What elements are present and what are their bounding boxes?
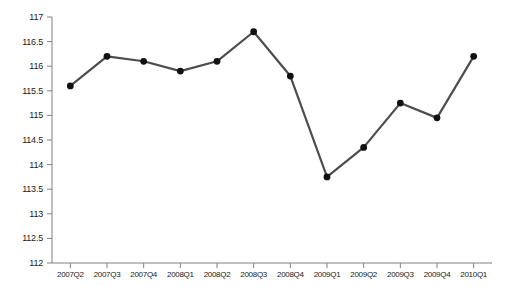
data-point <box>214 58 221 65</box>
x-axis-ticks <box>70 263 473 268</box>
y-axis-tick-label: 114 <box>0 160 43 170</box>
data-point <box>324 174 331 181</box>
data-point <box>287 73 294 80</box>
y-axis-tick-label: 115 <box>0 110 43 120</box>
data-point <box>67 82 74 89</box>
line-chart: 112112.5113113.5114114.5115115.5116116.5… <box>0 0 508 295</box>
y-axis-tick-label: 116.5 <box>0 37 43 47</box>
data-point <box>360 144 367 151</box>
data-point <box>470 53 477 60</box>
data-point <box>250 28 257 35</box>
y-axis-tick-label: 115.5 <box>0 86 43 96</box>
data-point <box>177 68 184 75</box>
chart-plot-area <box>0 0 508 295</box>
y-axis-tick-label: 112.5 <box>0 233 43 243</box>
data-point <box>434 114 441 121</box>
y-axis-tick-label: 112 <box>0 258 43 268</box>
y-axis-tick-label: 114.5 <box>0 135 43 145</box>
y-axis-tick-label: 113 <box>0 209 43 219</box>
y-axis-ticks <box>47 17 52 263</box>
data-point <box>104 53 111 60</box>
data-point-markers <box>67 28 477 180</box>
y-axis-tick-label: 116 <box>0 61 43 71</box>
data-point <box>140 58 147 65</box>
y-axis-tick-label: 113.5 <box>0 184 43 194</box>
data-series-line <box>70 32 473 177</box>
x-axis-tick-label: 2010Q1 <box>452 270 496 280</box>
data-point <box>397 100 404 107</box>
y-axis-tick-label: 117 <box>0 12 43 22</box>
